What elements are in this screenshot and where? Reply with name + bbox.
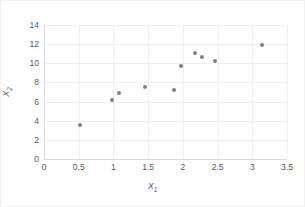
x-axis-tick-label: 3.5 — [281, 162, 293, 172]
y-axis-tick-label: 10 — [30, 58, 39, 68]
x-axis-tick-label: 1.5 — [142, 162, 154, 172]
y-axis-tick-label: 0 — [34, 154, 39, 164]
scatter-chart: 02468101214 00.511.522.533.5X1X2 — [0, 0, 305, 207]
x-axis-tick-label: 0 — [42, 162, 47, 172]
data-point — [260, 43, 264, 47]
gridline-horizontal — [44, 25, 287, 26]
gridline-horizontal — [44, 44, 287, 45]
y-axis-tick-label: 4 — [34, 116, 39, 126]
y-axis-tick-label: 14 — [30, 20, 39, 30]
data-point — [179, 64, 183, 68]
x-axis-tick-label: 3 — [250, 162, 255, 172]
y-axis-tick-label: 12 — [30, 39, 39, 49]
data-point — [78, 123, 82, 127]
plot-area — [44, 25, 287, 159]
data-point — [193, 51, 197, 55]
data-point — [172, 88, 176, 92]
gridline-horizontal — [44, 121, 287, 122]
y-axis-tick-label: 6 — [34, 97, 39, 107]
y-axis-title-subscript: 2 — [6, 87, 13, 91]
gridline-horizontal — [44, 140, 287, 141]
y-axis-line — [44, 25, 45, 159]
y-axis-tick-label: 8 — [34, 77, 39, 87]
data-point — [143, 85, 147, 89]
x-axis-tick-label: 1 — [111, 162, 116, 172]
x-axis-line — [44, 159, 287, 160]
y-axis-tick-label: 2 — [34, 135, 39, 145]
y-axis-title-base: X — [1, 91, 11, 97]
x-axis-tick-label: 2.5 — [212, 162, 224, 172]
y-axis-title: X2 — [1, 87, 13, 97]
x-axis-title: X1 — [1, 181, 304, 193]
gridline-horizontal — [44, 63, 287, 64]
data-point — [117, 91, 121, 95]
gridline-horizontal — [44, 82, 287, 83]
x-axis-title-subscript: 1 — [154, 186, 158, 193]
data-point — [200, 55, 204, 59]
x-axis-tick-label: 2 — [180, 162, 185, 172]
gridline-horizontal — [44, 102, 287, 103]
gridline-vertical — [287, 25, 288, 159]
x-axis-tick-label: 0.5 — [73, 162, 85, 172]
y-axis-tick-labels: 02468101214 — [1, 1, 39, 207]
